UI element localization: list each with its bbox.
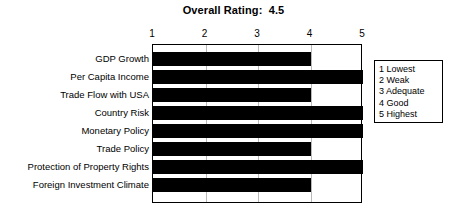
bar (153, 178, 311, 192)
category-label: Per Capita Income (0, 71, 149, 82)
category-label: Protection of Property Rights (0, 161, 149, 172)
bar (153, 70, 363, 84)
rating-bar-chart: Overall Rating: 4.5 12345 GDP GrowthPer … (0, 0, 467, 222)
x-tick-label-3: 3 (254, 28, 260, 40)
bar (153, 142, 311, 156)
x-tick-label-2: 2 (202, 28, 208, 40)
bar (153, 52, 311, 66)
x-tick-label-1: 1 (149, 28, 155, 40)
category-axis-labels: GDP GrowthPer Capita IncomeTrade Flow wi… (0, 48, 149, 200)
category-label: Trade Policy (0, 143, 149, 154)
bar (153, 124, 363, 138)
legend-item: 4 Good (379, 98, 442, 109)
legend-item: 5 Highest (379, 109, 442, 120)
category-label: Country Risk (0, 107, 149, 118)
bar (153, 160, 363, 174)
category-label: Trade Flow with USA (0, 89, 149, 100)
legend-item: 2 Weak (379, 75, 442, 86)
x-tick-label-5: 5 (359, 28, 365, 40)
x-tick-label-4: 4 (307, 28, 313, 40)
legend-item: 1 Lowest (379, 64, 442, 75)
x-axis-tick-labels: 12345 (152, 28, 362, 42)
plot-inner (153, 45, 361, 202)
category-label: GDP Growth (0, 53, 149, 64)
chart-title: Overall Rating: 4.5 (0, 4, 467, 16)
rating-scale-legend: 1 Lowest2 Weak3 Adequate4 Good5 Highest (374, 60, 443, 123)
legend-item: 3 Adequate (379, 86, 442, 97)
plot-area (152, 44, 362, 203)
bar (153, 106, 363, 120)
category-label: Foreign Investment Climate (0, 179, 149, 190)
bar (153, 88, 311, 102)
category-label: Monetary Policy (0, 125, 149, 136)
